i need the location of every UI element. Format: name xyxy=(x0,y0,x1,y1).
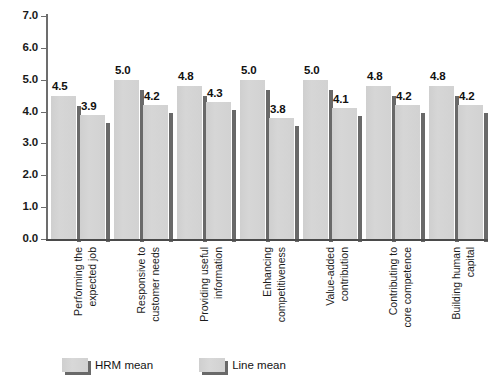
bar-group: 5.03.8 xyxy=(240,16,298,239)
category-label-line1: Building human xyxy=(449,247,463,343)
category-label-line2: core competence xyxy=(400,247,414,343)
legend-swatch xyxy=(62,358,88,372)
bar-value-label-hrm: 5.0 xyxy=(241,64,256,76)
bar-chart: 7.06.05.04.03.02.01.00.0 4.53.95.04.24.8… xyxy=(0,0,491,388)
bar-value-label-line: 4.1 xyxy=(333,93,348,105)
bar-value-label-line: 3.8 xyxy=(270,103,285,115)
bar-shadow xyxy=(484,113,488,242)
bar-value-label-line: 4.2 xyxy=(459,90,474,102)
bar-line-mean xyxy=(143,105,168,239)
bar-group: 4.84.2 xyxy=(429,16,487,239)
bar-group: 4.84.3 xyxy=(177,16,235,239)
category-label: Providing usefulinformation xyxy=(197,247,227,343)
category-label-line1: Responsive to xyxy=(134,247,148,343)
category-label: Responsive tocustomer needs xyxy=(134,247,164,343)
bar-shadow xyxy=(295,126,299,242)
y-tick-label: 7.0 xyxy=(2,9,38,21)
bar-hrm-mean xyxy=(114,80,139,239)
bar-shadow xyxy=(106,123,110,242)
legend-label: Line mean xyxy=(232,359,286,371)
bar-hrm-mean xyxy=(429,86,454,239)
legend-item: Line mean xyxy=(199,358,286,372)
bar-value-label-line: 3.9 xyxy=(81,100,96,112)
category-label-line1: Performing the xyxy=(71,247,85,343)
legend-swatch xyxy=(199,358,225,372)
chart-legend: HRM meanLine mean xyxy=(62,358,286,372)
bar-shadow xyxy=(169,113,173,242)
category-label-line2: competitiveness xyxy=(274,247,288,343)
y-tick-label: 4.0 xyxy=(2,105,38,117)
category-label: Building humancapital xyxy=(449,247,479,343)
bar-value-label-line: 4.2 xyxy=(396,90,411,102)
category-label: Performing theexpected job xyxy=(71,247,101,343)
bar-hrm-mean xyxy=(303,80,328,239)
bar-value-label-hrm: 5.0 xyxy=(304,64,319,76)
category-label-line2: capital xyxy=(463,247,477,343)
bar-shadow xyxy=(421,113,425,242)
bar-line-mean xyxy=(80,115,105,239)
bar-line-mean xyxy=(458,105,483,239)
category-label-line2: expected job xyxy=(85,247,99,343)
bar-value-label-hrm: 5.0 xyxy=(115,64,130,76)
legend-item: HRM mean xyxy=(62,358,153,372)
bar-hrm-mean xyxy=(366,86,391,239)
bar-value-label-hrm: 4.8 xyxy=(367,70,382,82)
category-label-line2: customer needs xyxy=(148,247,162,343)
bar-shadow xyxy=(232,110,236,242)
category-label-line2: contribution xyxy=(337,247,351,343)
bar-line-mean xyxy=(206,102,231,239)
bar-value-label-hrm: 4.8 xyxy=(430,70,445,82)
category-label-line1: Value-added xyxy=(323,247,337,343)
bar-group: 4.53.9 xyxy=(51,16,109,239)
bar-group: 4.84.2 xyxy=(366,16,424,239)
category-label-line2: information xyxy=(211,247,225,343)
bar-hrm-mean xyxy=(177,86,202,239)
y-tick-label: 1.0 xyxy=(2,200,38,212)
category-label-line1: Providing useful xyxy=(197,247,211,343)
bar-line-mean xyxy=(269,118,294,239)
bar-group: 5.04.2 xyxy=(114,16,172,239)
bar-line-mean xyxy=(395,105,420,239)
category-label: Contributing tocore competence xyxy=(386,247,416,343)
bar-group: 5.04.1 xyxy=(303,16,361,239)
category-label: Value-addedcontribution xyxy=(323,247,353,343)
category-label: Enhancingcompetitiveness xyxy=(260,247,290,343)
y-tick-label: 0.0 xyxy=(2,232,38,244)
bar-value-label-line: 4.2 xyxy=(144,90,159,102)
y-tick-label: 6.0 xyxy=(2,41,38,53)
y-tick-label: 3.0 xyxy=(2,136,38,148)
bar-shadow xyxy=(358,116,362,242)
plot-area: 4.53.95.04.24.84.35.03.85.04.14.84.24.84… xyxy=(47,16,488,239)
bar-hrm-mean xyxy=(240,80,265,239)
bar-line-mean xyxy=(332,108,357,239)
bar-hrm-mean xyxy=(51,96,76,239)
y-tick-label: 5.0 xyxy=(2,73,38,85)
bar-value-label-hrm: 4.8 xyxy=(178,70,193,82)
bar-value-label-hrm: 4.5 xyxy=(52,80,67,92)
legend-label: HRM mean xyxy=(95,359,153,371)
category-label-line1: Contributing to xyxy=(386,247,400,343)
bar-value-label-line: 4.3 xyxy=(207,87,222,99)
y-tick-label: 2.0 xyxy=(2,168,38,180)
category-label-line1: Enhancing xyxy=(260,247,274,343)
